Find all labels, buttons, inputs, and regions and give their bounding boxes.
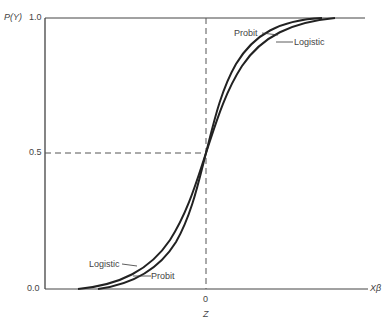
x-axis-label: Xβ xyxy=(370,284,381,293)
probit-bottom-label: Probit xyxy=(151,272,175,281)
y-tick-0-5: 0.5 xyxy=(29,148,42,157)
x-tick-zero: 0 xyxy=(203,295,208,304)
chart-canvas xyxy=(0,0,390,328)
logistic-top-label: Logistic xyxy=(294,38,325,47)
y-tick-0-0: 0.0 xyxy=(27,284,40,293)
logistic-bottom-leader xyxy=(122,264,137,266)
y-axis-label: P(Y) xyxy=(4,13,22,22)
logistic-bottom-label: Logistic xyxy=(89,260,120,269)
y-tick-1-0: 1.0 xyxy=(29,13,42,22)
z-label: Z xyxy=(203,310,209,319)
probit-top-label: Probit xyxy=(234,29,258,38)
probit-curve xyxy=(98,18,322,289)
